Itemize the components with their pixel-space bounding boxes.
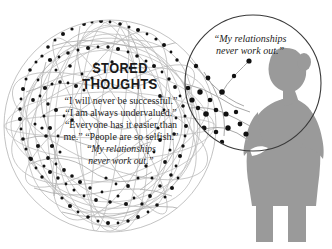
hair-bun — [297, 53, 311, 71]
illustration-canvas: STORED THOUGHTS “I will never be success… — [0, 0, 332, 249]
thought-sphere — [0, 7, 227, 245]
left-leg — [256, 204, 273, 242]
woman-silhouette — [244, 48, 324, 242]
right-leg — [288, 204, 306, 242]
illustration-graphics — [0, 0, 332, 249]
